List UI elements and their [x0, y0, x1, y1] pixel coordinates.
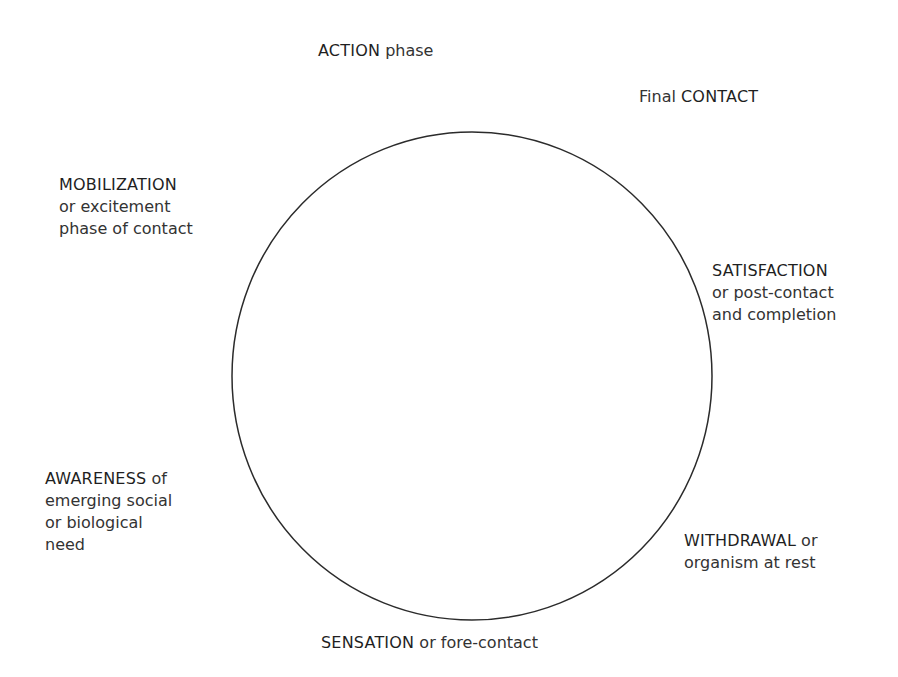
- label-awareness-line4: need: [45, 534, 172, 556]
- label-awareness-line3: or biological: [45, 512, 172, 534]
- label-satisfaction: SATISFACTION or post-contact and complet…: [712, 260, 836, 326]
- label-awareness-caps: AWARENESS: [45, 469, 146, 488]
- label-withdrawal-line2: organism at rest: [684, 552, 817, 574]
- label-satisfaction-line2: or post-contact: [712, 282, 836, 304]
- label-sensation-caps: SENSATION: [321, 633, 414, 652]
- label-satisfaction-caps: SATISFACTION: [712, 260, 836, 282]
- cycle-circle: [232, 132, 712, 620]
- label-action: ACTION phase: [318, 40, 433, 62]
- label-mobilization-line2: or excitement: [59, 196, 193, 218]
- label-awareness-rest: of: [146, 469, 167, 488]
- label-withdrawal-caps: WITHDRAWAL: [684, 531, 796, 550]
- label-contact: Final CONTACT: [639, 86, 758, 108]
- label-withdrawal-rest: or: [796, 531, 817, 550]
- label-contact-caps: CONTACT: [681, 87, 758, 106]
- label-action-caps: ACTION: [318, 41, 380, 60]
- label-action-rest: phase: [380, 41, 433, 60]
- label-withdrawal: WITHDRAWAL or organism at rest: [684, 530, 817, 574]
- label-awareness-line2: emerging social: [45, 490, 172, 512]
- label-mobilization-line3: phase of contact: [59, 218, 193, 240]
- label-mobilization: MOBILIZATION or excitement phase of cont…: [59, 174, 193, 240]
- cycle-diagram: [0, 0, 898, 677]
- label-satisfaction-line3: and completion: [712, 304, 836, 326]
- label-sensation: SENSATION or fore-contact: [321, 632, 538, 654]
- label-awareness: AWARENESS of emerging social or biologic…: [45, 468, 172, 556]
- label-sensation-rest: or fore-contact: [414, 633, 538, 652]
- label-contact-pre: Final: [639, 87, 681, 106]
- label-mobilization-caps: MOBILIZATION: [59, 174, 193, 196]
